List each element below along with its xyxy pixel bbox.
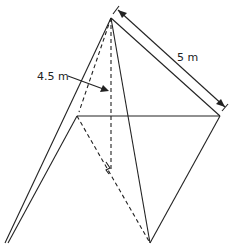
edge-apex-left-far [5, 18, 111, 243]
edge-base-left-inner [8, 116, 77, 243]
edge-base-right-front [150, 116, 220, 243]
pyramid-diagram: 5 m 4.5 m [0, 0, 237, 244]
edge-apex-right [111, 18, 220, 116]
dimension-line-5m [118, 10, 225, 107]
hidden-edge-apex-back [79, 18, 111, 112]
height-label: 4.5 m [37, 70, 69, 83]
slant-edge-label: 5 m [177, 51, 198, 64]
